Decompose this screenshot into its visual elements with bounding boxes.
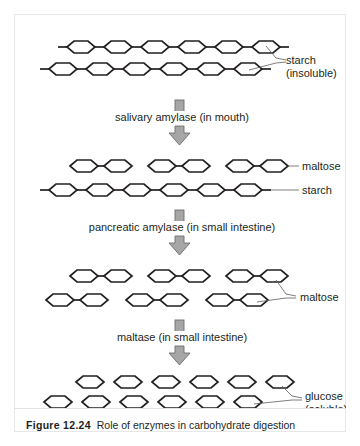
maltose-label-1: maltose <box>302 160 341 173</box>
diagram-panel: starch (insoluble) salivary amylase (in … <box>14 14 346 408</box>
glucose-soluble-label: glucose (soluble) <box>305 390 346 408</box>
glucose-row-a <box>76 376 294 388</box>
glucose-row-b <box>44 396 262 408</box>
enzyme-label-maltase: maltase (in small intestine) <box>61 331 303 343</box>
glucose-soluble-label-line1: glucose <box>305 390 346 403</box>
enzyme-label-salivary-amylase: salivary amylase (in mouth) <box>61 111 303 123</box>
maltose-label-2: maltose <box>300 291 339 304</box>
figure-caption-text: Role of enzymes in carbohydrate digestio… <box>97 419 295 431</box>
figure-caption-number: Figure 12.24 <box>26 419 91 431</box>
stage-starch-molecules <box>40 41 289 75</box>
starch-insoluble-label-line2: (insoluble) <box>286 67 337 80</box>
stage-maltose-starch-molecules <box>40 160 299 196</box>
starch-insoluble-label-line1: starch <box>286 54 337 67</box>
enzyme-label-pancreatic-amylase: pancreatic amylase (in small intestine) <box>41 221 323 233</box>
starch-insoluble-label: starch (insoluble) <box>286 54 337 80</box>
starch-label-2: starch <box>302 184 332 197</box>
maltose-pairs-row-b <box>70 270 288 282</box>
caption-divider <box>14 408 346 409</box>
figure-caption: Figure 12.24 Role of enzymes in carbohyd… <box>26 419 338 431</box>
stage-glucose-molecules <box>44 376 302 408</box>
starch-chain-row-2 <box>40 63 271 75</box>
glucose-soluble-label-line2: (soluble) <box>305 403 346 408</box>
starch-chain-row-3 <box>40 184 271 196</box>
maltose-pairs-row-c <box>46 294 268 306</box>
figure-container: starch (insoluble) salivary amylase (in … <box>0 0 360 446</box>
stage-maltose-molecules <box>46 270 296 306</box>
starch-chain-row-1 <box>58 41 289 53</box>
maltose-pairs-row-a <box>70 160 288 172</box>
